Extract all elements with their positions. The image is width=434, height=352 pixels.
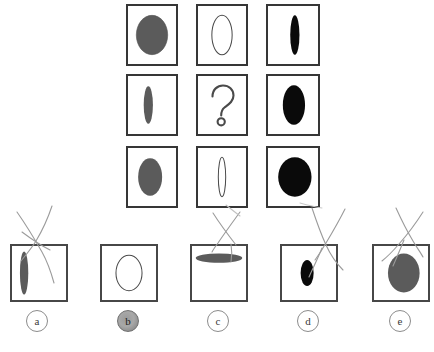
option-e-box[interactable] <box>372 244 430 302</box>
ellipse-gray-flat-icon <box>192 246 246 300</box>
matrix-cell-r1c1[interactable] <box>126 4 178 66</box>
ellipse-gray-very-narrow-icon <box>12 246 66 300</box>
ellipse-gray-wide-option-icon <box>374 246 428 300</box>
option-b-box[interactable] <box>100 244 158 302</box>
ellipse-black-narrow-option-icon <box>282 246 336 300</box>
option-a-letter: a <box>35 315 40 327</box>
ellipse-outline-icon <box>198 6 246 64</box>
matrix-cell-r1c2[interactable] <box>196 4 248 66</box>
option-d-box[interactable] <box>280 244 338 302</box>
question-mark-icon <box>198 76 246 134</box>
answer-option-d[interactable]: d <box>276 236 364 352</box>
ellipse-gray-medium-icon <box>128 148 176 206</box>
option-b-letter: b <box>125 315 131 327</box>
matrix-cell-r1c3[interactable] <box>266 4 320 66</box>
ellipse-black-narrow-icon <box>268 6 318 64</box>
matrix-cell-r3c3[interactable] <box>266 146 320 208</box>
matrix-cell-missing-question[interactable] <box>196 74 248 136</box>
ellipse-outline-medium-icon <box>102 246 156 300</box>
answer-option-c[interactable]: c <box>186 236 274 352</box>
ellipse-black-wide-icon <box>268 148 318 206</box>
option-c-box[interactable] <box>190 244 248 302</box>
option-c-label[interactable]: c <box>207 310 229 332</box>
option-e-label[interactable]: e <box>389 310 411 332</box>
matrix-cell-r3c1[interactable] <box>126 146 178 208</box>
ellipse-gray-wide-icon <box>128 6 176 64</box>
option-a-box[interactable] <box>10 244 68 302</box>
option-d-label[interactable]: d <box>297 310 319 332</box>
option-a-label[interactable]: a <box>26 310 48 332</box>
matrix-grid <box>126 4 326 209</box>
matrix-cell-r3c2[interactable] <box>196 146 248 208</box>
matrix-cell-r2c1[interactable] <box>126 74 178 136</box>
matrix-cell-r2c3[interactable] <box>266 74 320 136</box>
answer-option-b[interactable]: b <box>96 236 184 352</box>
ellipse-gray-narrow-icon <box>128 76 176 134</box>
answer-options-row: a b <box>0 236 423 352</box>
option-b-label[interactable]: b <box>117 310 139 332</box>
ellipse-outline-thin-icon <box>198 148 246 206</box>
answer-option-e[interactable]: e <box>368 236 434 352</box>
option-c-letter: c <box>216 315 221 327</box>
answer-option-a[interactable]: a <box>6 236 94 352</box>
ellipse-black-medium-icon <box>268 76 318 134</box>
option-d-letter: d <box>305 315 311 327</box>
option-e-letter: e <box>398 315 403 327</box>
